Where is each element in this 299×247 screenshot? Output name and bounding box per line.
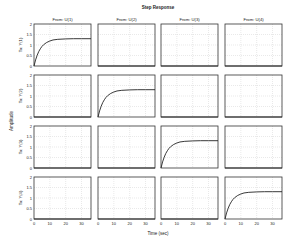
subplot-1-3: From: U(3)	[161, 17, 218, 66]
subplot-2-4	[225, 75, 282, 117]
series-line	[98, 90, 155, 117]
y-tick-label: 1.5	[26, 83, 32, 88]
series-line	[225, 192, 282, 219]
y-tick-label: 0	[30, 166, 33, 171]
subplot-3-1: 00.511.52To: Y(3)	[18, 124, 91, 171]
series-line	[34, 39, 91, 66]
y-tick-label: 0.5	[26, 206, 32, 211]
x-tick-label: 30	[79, 221, 84, 226]
series-line	[161, 141, 218, 168]
x-tick-label: 10	[175, 221, 180, 226]
y-tick-label: 0	[30, 64, 33, 69]
input-label: From: U(2)	[116, 17, 137, 22]
y-tick-label: 0.5	[26, 104, 32, 109]
y-axis-label: Amplitude	[9, 111, 14, 132]
chart-title: Step Response	[142, 5, 175, 10]
output-label: To: Y(2)	[18, 88, 23, 103]
input-label: From: U(1)	[52, 17, 73, 22]
y-tick-label: 0.5	[26, 53, 32, 58]
y-tick-label: 1.5	[26, 134, 32, 139]
y-tick-label: 1.5	[26, 185, 32, 190]
x-tick-label: 20	[63, 221, 68, 226]
y-tick-label: 1	[30, 145, 33, 150]
subplot-4-4: 0102030	[224, 177, 282, 226]
x-tick-label: 10	[112, 221, 117, 226]
output-label: To: Y(3)	[18, 139, 23, 154]
x-axis-label: Time (sec)	[147, 231, 169, 236]
subplot-3-4	[225, 126, 282, 168]
subplot-1-4: From: U(4)	[225, 17, 282, 66]
x-tick-label: 30	[143, 221, 148, 226]
input-label: From: U(4)	[243, 17, 264, 22]
subplot-1-1: 00.511.52To: Y(1)From: U(1)	[18, 17, 91, 69]
subplot-4-2: 0102030	[97, 177, 155, 226]
y-tick-label: 2	[30, 124, 33, 129]
x-tick-label: 20	[190, 221, 195, 226]
y-tick-label: 2	[30, 22, 33, 27]
subplot-2-3	[161, 75, 218, 117]
x-tick-label: 0	[97, 221, 100, 226]
x-tick-label: 30	[270, 221, 275, 226]
subplot-2-2	[98, 75, 155, 117]
y-tick-label: 1	[30, 196, 33, 201]
input-label: From: U(3)	[179, 17, 200, 22]
y-tick-label: 0	[30, 115, 33, 120]
subplot-4-3: 0102030	[160, 177, 218, 226]
x-tick-label: 0	[160, 221, 163, 226]
x-tick-label: 20	[127, 221, 132, 226]
subplot-3-3	[161, 126, 218, 168]
output-label: To: Y(4)	[18, 190, 23, 205]
x-tick-label: 0	[224, 221, 227, 226]
x-tick-label: 0	[33, 221, 36, 226]
x-tick-label: 20	[254, 221, 259, 226]
x-tick-label: 30	[206, 221, 211, 226]
subplot-4-1: 00.511.52To: Y(4)0102030	[18, 175, 91, 227]
subplot-3-2	[98, 126, 155, 168]
subplot-2-1: 00.511.52To: Y(2)	[18, 73, 91, 120]
x-tick-label: 10	[48, 221, 53, 226]
step-response-chart: Step Response Time (sec) Amplitude 00.51…	[0, 0, 299, 247]
y-tick-label: 1.5	[26, 32, 32, 37]
x-tick-label: 10	[239, 221, 244, 226]
output-label: To: Y(1)	[18, 37, 23, 52]
y-tick-label: 2	[30, 73, 33, 78]
subplot-1-2: From: U(2)	[98, 17, 155, 66]
y-tick-label: 1	[30, 43, 33, 48]
y-tick-label: 1	[30, 94, 33, 99]
y-tick-label: 2	[30, 175, 33, 180]
y-tick-label: 0.5	[26, 155, 32, 160]
